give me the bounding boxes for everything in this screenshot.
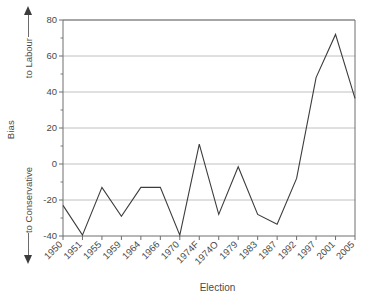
x-tick-label: 1951 — [61, 239, 84, 262]
x-axis-title-label: Election — [154, 282, 236, 293]
gridlines — [63, 20, 355, 200]
x-tick-label: 1992 — [275, 239, 298, 262]
y-tick-label: 20 — [46, 122, 57, 133]
x-ticks — [63, 236, 355, 240]
y-tick-label: -20 — [43, 194, 57, 205]
x-tick-label: 1979 — [217, 239, 240, 262]
y-tick-label: 80 — [46, 14, 57, 25]
x-tick-label: 2001 — [314, 239, 337, 262]
y-tick-label: 40 — [46, 86, 57, 97]
x-tick-label: 2005 — [334, 239, 357, 262]
y-tick-label: 0 — [52, 158, 57, 169]
plot-area: 806040200-20-40 195019511955195919641966… — [0, 0, 389, 302]
x-tick-label: 1997 — [295, 239, 318, 262]
x-tick-label: 1983 — [236, 239, 259, 262]
x-tick-label: 1955 — [81, 239, 104, 262]
x-tick-label: 1966 — [139, 239, 162, 262]
x-tick-label: 1959 — [100, 239, 123, 262]
chart-figure: Bias to Labour to Conservative 806040200… — [0, 0, 389, 302]
data-series-line — [63, 34, 355, 235]
x-tick-label: 1964 — [120, 239, 143, 262]
y-tick-label: 60 — [46, 50, 57, 61]
chart-svg: 806040200-20-40 195019511955195919641966… — [0, 0, 389, 302]
x-tick-labels: 19501951195519591964196619701974F1974O19… — [42, 238, 357, 266]
y-major-ticks — [59, 20, 63, 236]
y-tick-labels: 806040200-20-40 — [43, 14, 57, 241]
x-tick-label: 1987 — [256, 239, 279, 262]
x-tick-label: 1950 — [42, 239, 65, 262]
x-axis-title: Election — [0, 282, 389, 293]
